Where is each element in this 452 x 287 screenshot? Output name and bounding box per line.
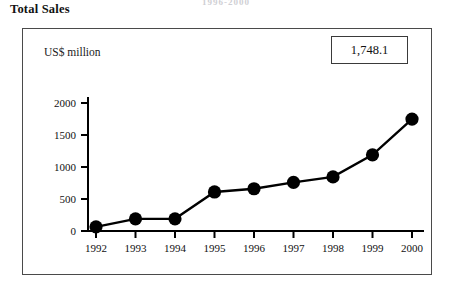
value-callout-box: 1,748.1 [331, 36, 408, 64]
value-callout-label: 1,748.1 [351, 43, 389, 58]
y-axis-unit-label: US$ million [44, 46, 101, 58]
page-title: Total Sales [10, 2, 70, 17]
chart-frame [22, 28, 432, 275]
